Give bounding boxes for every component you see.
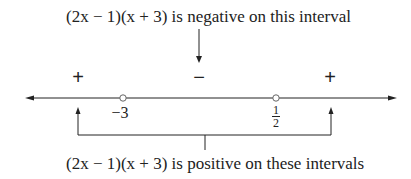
label-neg3: −3 xyxy=(111,104,128,122)
positive-intervals-annotation: (2x − 1)(x + 3) is positive on these int… xyxy=(66,154,364,174)
right-arrowhead-icon xyxy=(388,96,397,101)
open-circle-neg3 xyxy=(120,95,126,101)
left-arrowhead-icon xyxy=(25,96,34,101)
down-arrow-head xyxy=(196,56,202,63)
fraction-denominator: 2 xyxy=(272,117,280,129)
number-line-diagram xyxy=(0,0,411,179)
label-one-half: 1 2 xyxy=(272,104,280,131)
open-circle-half xyxy=(273,95,279,101)
up-arrow-left-head xyxy=(76,107,81,114)
up-arrow-right-head xyxy=(329,107,334,114)
